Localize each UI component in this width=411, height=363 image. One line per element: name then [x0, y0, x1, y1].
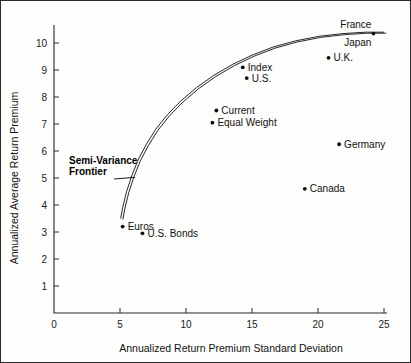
y-tick-label: 6 — [41, 146, 47, 157]
y-axis-title: Annualized Average Return Premium — [8, 91, 20, 264]
x-tick-label: 20 — [312, 319, 324, 330]
data-point-label: Canada — [310, 183, 345, 194]
annotation-label-line1: Semi-Variance — [69, 155, 138, 166]
chart-figure: 0510152025 12345678910 Semi-VarianceFron… — [0, 0, 411, 363]
data-point-marker — [214, 109, 218, 113]
data-point-marker — [241, 65, 245, 69]
x-tick-label: 0 — [51, 319, 57, 330]
y-tick-label: 4 — [41, 200, 47, 211]
data-point-label: Germany — [344, 139, 385, 150]
data-point-marker — [327, 56, 331, 60]
data-point-marker — [372, 32, 376, 36]
x-tick-label: 10 — [180, 319, 192, 330]
y-tick-label: 9 — [41, 65, 47, 76]
data-point-label: U.K. — [334, 52, 353, 63]
data-point-label: U.S. — [252, 73, 271, 84]
y-tick-label: 10 — [36, 38, 48, 49]
y-tick-label: 5 — [41, 173, 47, 184]
data-point-marker — [121, 225, 125, 229]
y-axis-ticks: 12345678910 — [36, 38, 59, 292]
y-tick-label: 2 — [41, 254, 47, 265]
scatter-plot: 0510152025 12345678910 Semi-VarianceFron… — [1, 1, 411, 363]
annotation-group: Semi-VarianceFrontier — [69, 155, 138, 179]
y-tick-label: 7 — [41, 119, 47, 130]
y-tick-label: 1 — [41, 281, 47, 292]
annotation-leader-line — [114, 177, 135, 179]
x-tick-label: 15 — [246, 319, 258, 330]
data-points-group: FranceJapanU.K.IndexU.S.CurrentEqual Wei… — [121, 19, 386, 239]
data-point-marker — [211, 121, 215, 125]
x-tick-label: 25 — [378, 319, 390, 330]
data-point-marker — [303, 187, 307, 191]
data-point-label: U.S. Bonds — [147, 228, 198, 239]
x-axis-ticks: 0510152025 — [51, 308, 390, 330]
x-axis-title: Annualized Return Premium Standard Devia… — [119, 342, 343, 354]
y-tick-label: 8 — [41, 92, 47, 103]
data-point-label: Equal Weight — [217, 117, 277, 128]
data-point-label: Current — [221, 105, 255, 116]
data-point-marker — [337, 142, 341, 146]
data-point-marker — [141, 231, 145, 235]
x-tick-label: 5 — [117, 319, 123, 330]
data-point-label: France — [340, 19, 372, 30]
y-tick-label: 3 — [41, 227, 47, 238]
data-point-label: Japan — [344, 37, 371, 48]
data-point-label: Index — [248, 62, 272, 73]
annotation-label-line2: Frontier — [69, 166, 107, 177]
data-point-marker — [245, 76, 249, 80]
